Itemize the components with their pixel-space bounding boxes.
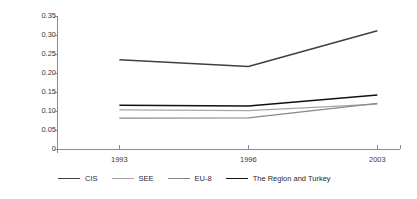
legend-label: The Region and Turkey xyxy=(253,174,331,183)
legend-line-icon xyxy=(112,178,134,179)
legend-line-icon xyxy=(226,178,248,179)
chart-container: Concentration index 0.350.300.250.200.15… xyxy=(0,0,417,199)
chart-legend: CISSEEEU-8The Region and Turkey xyxy=(58,174,331,183)
legend-line-icon xyxy=(58,178,80,179)
legend-line-icon xyxy=(168,178,190,179)
legend-label: CIS xyxy=(85,174,98,183)
legend-item[interactable]: The Region and Turkey xyxy=(226,174,331,183)
series-line xyxy=(119,95,377,106)
legend-item[interactable]: EU-8 xyxy=(168,174,212,183)
x-axis-tick-label: 1993 xyxy=(99,155,139,164)
axis-lines xyxy=(54,16,400,153)
legend-item[interactable]: SEE xyxy=(112,174,154,183)
series-lines xyxy=(119,31,377,118)
legend-label: SEE xyxy=(139,174,154,183)
x-axis-tick-label: 2003 xyxy=(357,155,397,164)
series-line xyxy=(119,31,377,67)
legend-label: EU-8 xyxy=(195,174,212,183)
x-axis-tick-label: 1996 xyxy=(228,155,268,164)
plot-area xyxy=(0,0,417,199)
legend-item[interactable]: CIS xyxy=(58,174,98,183)
